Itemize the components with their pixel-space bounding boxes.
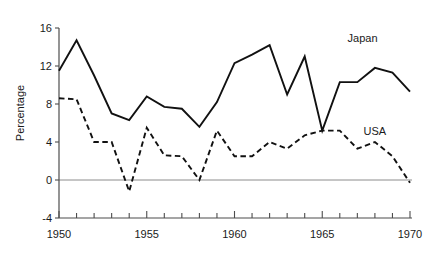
x-axis-ticks — [59, 211, 410, 218]
x-tick-label: 1970 — [398, 228, 422, 240]
y-tick-label: 8 — [46, 98, 52, 110]
y-tick-label: 0 — [46, 174, 52, 186]
line-chart: -40481216 19501955196019651970 JapanUSA … — [0, 0, 432, 280]
y-axis-title: Percentage — [14, 85, 26, 141]
x-tick-label: 1965 — [310, 228, 334, 240]
data-series-group — [59, 40, 410, 191]
series-line-japan — [59, 40, 410, 130]
y-tick-label: 4 — [46, 136, 52, 148]
y-tick-label: 12 — [40, 60, 52, 72]
x-axis-tick-labels: 19501955196019651970 — [47, 228, 422, 240]
y-tick-label: -4 — [42, 212, 52, 224]
x-tick-label: 1960 — [222, 228, 246, 240]
y-axis-tick-labels: -40481216 — [40, 22, 52, 224]
series-label-usa: USA — [364, 125, 387, 137]
y-tick-label: 16 — [40, 22, 52, 34]
x-tick-label: 1955 — [135, 228, 159, 240]
chart-canvas: -40481216 19501955196019651970 JapanUSA … — [0, 0, 432, 280]
chart-axes — [59, 28, 412, 218]
x-tick-label: 1950 — [47, 228, 71, 240]
series-inline-labels: JapanUSA — [348, 32, 387, 137]
series-label-japan: Japan — [348, 32, 378, 44]
